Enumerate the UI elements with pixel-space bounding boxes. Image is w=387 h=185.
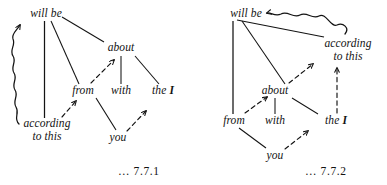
node-the-i-text: the I — [152, 84, 174, 96]
edge-according-willbe-wavy — [267, 13, 347, 34]
diagram-7-7-1: will be about from with the I according … — [0, 0, 194, 185]
edge-about-thei — [135, 56, 159, 84]
node-according-to-this: according to this — [324, 37, 371, 63]
edge-willbe-about — [62, 17, 104, 42]
node-according-line1: according — [324, 37, 371, 50]
edge-you-thei-dashed — [127, 111, 146, 131]
edge-willbe-from — [51, 21, 79, 84]
node-from: from — [72, 84, 94, 97]
figure-label-7-7-1: … 7.7.1 — [118, 165, 160, 177]
edge-according-from-dashed — [62, 101, 76, 117]
edge-willbe-according — [237, 20, 324, 37]
node-according-to-this: according to this — [23, 117, 70, 143]
node-about: about — [262, 84, 289, 97]
edge-from-you — [239, 128, 266, 148]
edge-about-thei — [292, 98, 318, 114]
node-from: from — [223, 114, 245, 127]
edge-willbe-about — [242, 21, 285, 84]
node-the-i: the I — [152, 84, 174, 97]
edge-about-according-dashed — [289, 64, 313, 83]
edge-from-about-dashed — [91, 60, 114, 83]
edge-from-about-dashed — [245, 97, 267, 113]
node-with: with — [265, 114, 285, 127]
node-the-i: the I — [325, 114, 347, 127]
node-will-be: will be — [230, 7, 262, 20]
edge-according-willbe-wavy — [12, 25, 20, 124]
edge-you-thei-dashed — [285, 131, 308, 149]
diagram-7-7-2: will be according to this about from wit… — [193, 0, 387, 185]
node-will-be: will be — [30, 7, 62, 20]
node-you: you — [110, 131, 127, 144]
node-with: with — [111, 84, 131, 97]
node-according-line2: to this — [23, 130, 70, 143]
figure-label-7-7-2: … 7.7.2 — [305, 165, 347, 177]
node-according-line2: to this — [324, 50, 371, 63]
edge-from-you — [96, 98, 116, 130]
node-the-i-text: the I — [325, 114, 347, 126]
node-you: you — [267, 149, 284, 162]
node-according-line1: according — [23, 117, 70, 130]
edge-layer-right — [193, 0, 387, 185]
diagram-pair: will be about from with the I according … — [0, 0, 387, 185]
node-about: about — [108, 41, 135, 54]
